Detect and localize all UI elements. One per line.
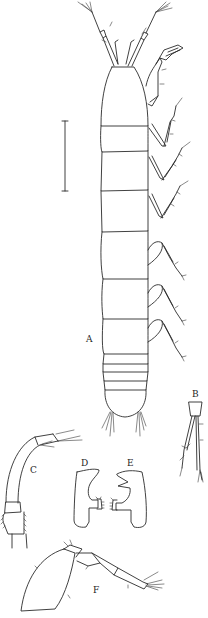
pereopod-4 (148, 242, 186, 280)
panel-label-e: E (127, 458, 134, 468)
panel-e-mandible-right: E (110, 458, 146, 527)
antennule-left (78, 2, 118, 66)
illustration-canvas: A B C D E F (0, 0, 208, 618)
pereopod-1 (149, 98, 182, 146)
cheliped (146, 45, 183, 106)
panel-d-mandible-left: D (74, 458, 104, 527)
pereopod-5 (148, 285, 186, 325)
panel-label-b: B (192, 389, 199, 399)
panel-c-antenna: C (1, 430, 82, 548)
panel-label-a: A (85, 334, 93, 344)
pleon-segments (103, 354, 148, 390)
panel-label-d: D (81, 458, 88, 468)
panel-b-uropod: B (180, 389, 203, 482)
panel-a-habitus: A (78, 2, 190, 436)
antennule-right (126, 2, 172, 66)
panel-label-c: C (30, 465, 37, 475)
uropods-habitus (102, 412, 146, 436)
figure-plate: A B C D E F (0, 0, 208, 618)
pereopod-6 (148, 320, 186, 361)
pereopod-2 (149, 142, 190, 180)
pereon-segments (101, 126, 148, 354)
panel-f-pereopod: F (21, 540, 164, 611)
pereopod-3 (149, 181, 188, 218)
cephalothorax (101, 67, 148, 126)
panel-label-f: F (93, 585, 99, 595)
scale-bar (62, 121, 68, 191)
